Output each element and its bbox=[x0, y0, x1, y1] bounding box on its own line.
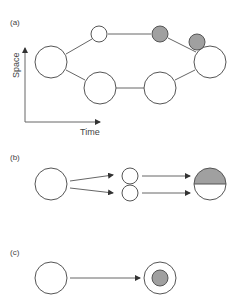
node-a-top-gray bbox=[152, 26, 168, 42]
arrow-b-split-bottom bbox=[70, 188, 113, 193]
panel-a-label: (a) bbox=[10, 18, 20, 27]
node-b-left bbox=[35, 168, 67, 200]
node-a-right bbox=[194, 46, 226, 78]
panel-a-edges bbox=[66, 34, 196, 88]
panel-c-label: (c) bbox=[10, 248, 20, 257]
y-axis-label: Space bbox=[11, 52, 21, 78]
node-c-right-inner bbox=[152, 270, 168, 286]
node-a-bottom-right bbox=[144, 72, 176, 104]
node-a-bottom-left bbox=[84, 72, 116, 104]
edge bbox=[66, 39, 92, 54]
panel-b: (b) bbox=[10, 153, 226, 201]
panel-c: (c) bbox=[10, 248, 176, 294]
node-a-right-gray bbox=[189, 34, 205, 50]
panel-a: (a) Space Time bbox=[10, 18, 226, 137]
edge bbox=[175, 70, 195, 80]
node-b-mid-bottom bbox=[122, 185, 138, 201]
node-a-top-small bbox=[91, 26, 107, 42]
node-c-left bbox=[35, 262, 67, 294]
x-axis-label: Time bbox=[80, 127, 100, 137]
diagram-canvas: (a) Space Time (b) bbox=[0, 0, 236, 306]
arrow-b-split-top bbox=[70, 175, 113, 181]
panel-b-label: (b) bbox=[10, 153, 20, 162]
node-a-left bbox=[35, 46, 67, 78]
node-b-right-half-filled bbox=[194, 168, 226, 200]
node-b-mid-top bbox=[122, 168, 138, 184]
edge bbox=[66, 70, 85, 80]
